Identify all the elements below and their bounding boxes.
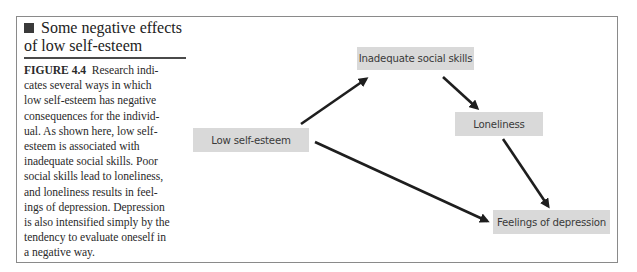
node-label: Inadequate social skills	[359, 53, 473, 64]
caption-line: tendency to evaluate oneself in	[24, 231, 166, 244]
node-label: Loneliness	[473, 119, 524, 130]
caption-line: inadequate social skills. Poor	[24, 155, 158, 168]
node-feelings-of-depression: Feelings of depression	[493, 210, 610, 234]
caption-line: is also intensified simply by the	[24, 216, 170, 229]
square-bullet-icon	[24, 23, 34, 33]
caption-line: cates several ways in which	[24, 79, 151, 92]
node-label: Low self-esteem	[211, 135, 290, 146]
figure-caption: FIGURE 4.4 Research indi- cates several …	[24, 63, 189, 261]
caption-line: consequences for the individ-	[24, 110, 159, 123]
caption-line: and loneliness results in feel-	[24, 186, 158, 199]
node-loneliness: Loneliness	[455, 112, 543, 136]
caption-line: ings of depression. Depression	[24, 201, 165, 214]
caption-line: low self-esteem has negative	[24, 94, 156, 107]
caption-title-text: Some negative effects of low self-esteem	[24, 19, 182, 54]
caption-line: social skills lead to loneliness,	[24, 170, 163, 183]
node-inadequate-social-skills: Inadequate social skills	[357, 47, 474, 70]
figure-label: FIGURE 4.4	[24, 64, 86, 77]
caption-line: ual. As shown here, low self-	[24, 125, 157, 138]
caption-title: Some negative effects of low self-esteem	[24, 19, 189, 55]
caption-line: a negative way.	[24, 246, 95, 259]
caption-line: Research indi-	[92, 64, 159, 77]
node-label: Feelings of depression	[497, 217, 606, 228]
caption-line: esteem is associated with	[24, 140, 140, 153]
node-low-self-esteem: Low self-esteem	[193, 128, 309, 152]
caption-divider	[24, 57, 186, 59]
